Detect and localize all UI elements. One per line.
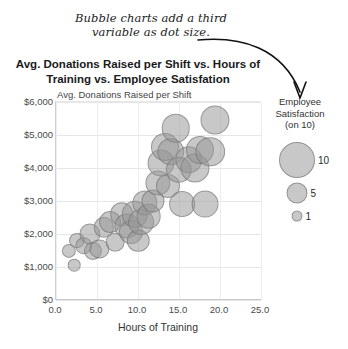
legend-title-line1: Employee xyxy=(279,96,321,107)
x-tick-label: 25.0 xyxy=(235,304,285,315)
legend-title: Employee Satisfaction (on 10) xyxy=(264,96,336,131)
legend-title-line2: Satisfaction xyxy=(275,108,324,119)
annotation-text: Bubble charts add a third variable as do… xyxy=(56,11,246,39)
y-axis-ticks: $0$1,000$2,000$3,000$4,000$5,000$6,000 xyxy=(0,101,53,299)
legend-bubble xyxy=(292,210,303,221)
y-tick-label: $2,000 xyxy=(1,228,53,239)
legend-label: 10 xyxy=(318,154,329,165)
gridline-vertical xyxy=(56,102,57,300)
gridline-horizontal xyxy=(56,267,261,268)
legend-label: 1 xyxy=(306,210,312,221)
bubble-point[interactable] xyxy=(68,259,81,272)
y-tick-label: $1,000 xyxy=(1,261,53,272)
legend-entries: 1051 xyxy=(264,136,348,244)
x-axis-title: Hours of Training xyxy=(55,321,261,333)
gridline-vertical xyxy=(97,102,98,300)
bubble-point[interactable] xyxy=(161,114,190,143)
bubble-chart-figure: Bubble charts add a third variable as do… xyxy=(0,0,348,349)
y-axis-title: Avg. Donations Raised per Shift xyxy=(57,89,191,100)
y-tick-label: $5,000 xyxy=(1,129,53,140)
chart-title: Avg. Donations Raised per Shift vs. Hour… xyxy=(14,57,262,86)
legend-bubble xyxy=(279,142,315,178)
bubble-point[interactable] xyxy=(195,137,225,167)
y-tick-label: $0 xyxy=(1,294,53,305)
gridline-horizontal xyxy=(56,102,261,103)
y-tick-label: $6,000 xyxy=(1,96,53,107)
size-legend: Employee Satisfaction (on 10) 1051 xyxy=(264,96,348,244)
legend-bubble xyxy=(287,182,308,203)
bubble-point[interactable] xyxy=(192,191,219,218)
legend-title-line3: (on 10) xyxy=(285,119,315,130)
gridline-horizontal xyxy=(56,300,261,301)
x-axis-line xyxy=(55,299,261,300)
y-tick-label: $4,000 xyxy=(1,162,53,173)
bubble-point[interactable] xyxy=(201,106,230,135)
y-tick-label: $3,000 xyxy=(1,195,53,206)
legend-label: 5 xyxy=(311,187,317,198)
plot-area xyxy=(55,101,260,299)
gridline-vertical xyxy=(261,102,262,300)
